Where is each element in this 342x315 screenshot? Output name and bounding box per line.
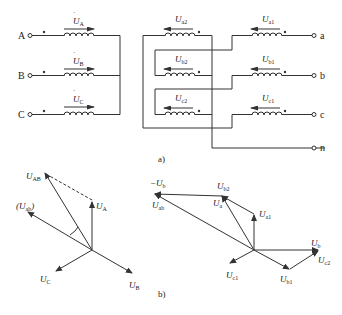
terminal-B bbox=[28, 74, 32, 78]
terminal-label-c: c bbox=[320, 109, 325, 120]
svg-text:UB: UB bbox=[73, 56, 84, 67]
svg-text:UA: UA bbox=[96, 201, 108, 212]
terminal-label-A: A bbox=[18, 30, 26, 41]
phasor-Ub1 bbox=[254, 250, 289, 269]
svg-text:UC: UC bbox=[73, 94, 84, 105]
svg-text:Ub2: Ub2 bbox=[217, 181, 230, 192]
primary-phase-C: C UC · bbox=[18, 87, 120, 120]
phasor-Uc1 bbox=[230, 250, 254, 263]
phasor-right: −Ub Uab Ub2 Ua Ua1 Ub Uc2 Uc1 Ub1 bbox=[150, 178, 330, 285]
terminal-n bbox=[312, 146, 316, 150]
polarity-dot bbox=[43, 31, 45, 33]
terminal-label-b: b bbox=[320, 70, 325, 81]
secondary2-phase-b: Ub2 bbox=[164, 54, 200, 76]
svg-text:Ub1: Ub1 bbox=[262, 54, 275, 65]
terminal-c bbox=[312, 113, 316, 117]
terminal-A bbox=[28, 34, 32, 38]
svg-text:Ua: Ua bbox=[213, 198, 223, 209]
terminal-b bbox=[312, 74, 316, 78]
secondary2-phase-c: Uc2 bbox=[164, 93, 200, 115]
svg-text:Ua1: Ua1 bbox=[259, 209, 271, 220]
coil-icon bbox=[252, 73, 282, 76]
phasor-UB bbox=[92, 250, 132, 273]
coil-icon bbox=[165, 33, 195, 36]
terminal-a bbox=[312, 34, 316, 38]
terminal-label-n: n bbox=[320, 142, 325, 153]
primary-phase-B: B UB · bbox=[18, 49, 120, 81]
svg-text:Uc1: Uc1 bbox=[226, 270, 238, 281]
phasor-Ua bbox=[222, 196, 254, 250]
svg-text:UA: UA bbox=[73, 16, 85, 27]
caption-b: b) bbox=[158, 289, 166, 299]
svg-text:Uc2: Uc2 bbox=[175, 93, 187, 104]
terminal-C bbox=[28, 113, 32, 117]
secondary2-phase-a: Ua2 bbox=[164, 14, 200, 36]
svg-text:UC: UC bbox=[40, 274, 51, 285]
svg-text:Ua2: Ua2 bbox=[175, 14, 187, 25]
polarity-dot bbox=[198, 31, 200, 33]
polarity-dot bbox=[284, 110, 286, 112]
phasor-Uab bbox=[155, 194, 254, 250]
svg-text:Ub1: Ub1 bbox=[280, 274, 293, 285]
terminal-label-a: a bbox=[320, 30, 325, 41]
polarity-dot bbox=[284, 71, 286, 73]
svg-text:Ua1: Ua1 bbox=[262, 14, 274, 25]
phasor-UC bbox=[56, 250, 92, 271]
phasor-left: UAB (Uab) UA UB UC bbox=[16, 171, 140, 291]
secondary1-phase-a: Ua1 a bbox=[232, 14, 325, 41]
svg-text:·: · bbox=[73, 87, 75, 95]
primary-phase-A: A UA · bbox=[18, 9, 120, 41]
caption-a: a) bbox=[158, 154, 165, 164]
svg-text:UAB: UAB bbox=[26, 171, 41, 182]
phasor-neg-Ub bbox=[155, 194, 222, 196]
polarity-dot bbox=[284, 31, 286, 33]
svg-text:Uc2: Uc2 bbox=[318, 255, 330, 266]
coil-icon bbox=[252, 112, 282, 115]
polarity-dot bbox=[198, 110, 200, 112]
svg-text:Ub: Ub bbox=[311, 238, 321, 249]
svg-text:−Ub: −Ub bbox=[150, 178, 166, 189]
coil-icon bbox=[252, 33, 282, 36]
transformer-diagram: A UA · B UB · C bbox=[0, 0, 342, 315]
angle-arc bbox=[70, 227, 78, 235]
dashed-construction-line bbox=[46, 174, 92, 200]
secondary2-wiring bbox=[143, 36, 325, 149]
polarity-dot bbox=[43, 71, 45, 73]
circuit-a: A UA · B UB · C bbox=[18, 9, 325, 164]
coil-icon bbox=[165, 112, 195, 115]
coil-icon bbox=[64, 33, 94, 36]
polarity-dot bbox=[43, 110, 45, 112]
terminal-label-C: C bbox=[18, 109, 25, 120]
terminal-label-B: B bbox=[18, 70, 25, 81]
coil-icon bbox=[165, 73, 195, 76]
svg-text:·: · bbox=[73, 49, 75, 57]
svg-text:(Uab): (Uab) bbox=[16, 201, 34, 212]
phasor-UAB bbox=[45, 173, 92, 250]
phasor-Uab bbox=[28, 212, 92, 250]
secondary1-phase-c: Uc1 c bbox=[232, 93, 325, 120]
svg-text:Uc1: Uc1 bbox=[262, 93, 274, 104]
svg-text:Uab: Uab bbox=[152, 200, 164, 211]
coil-icon bbox=[64, 112, 94, 115]
secondary1-phase-b: Ub1 b bbox=[232, 54, 325, 81]
svg-text:UB: UB bbox=[129, 280, 140, 291]
svg-text:·: · bbox=[73, 9, 75, 17]
coil-icon bbox=[64, 73, 94, 76]
svg-text:Ub2: Ub2 bbox=[175, 54, 188, 65]
phasor-Uc2 bbox=[290, 251, 318, 269]
polarity-dot bbox=[198, 71, 200, 73]
